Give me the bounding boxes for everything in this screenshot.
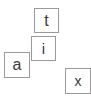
letter-tile-glyph: x	[75, 74, 82, 88]
letter-tile-glyph: i	[42, 41, 45, 56]
letter-tile-canvas: t i a x	[0, 0, 91, 96]
letter-tile-glyph: a	[13, 57, 22, 73]
letter-tile-x[interactable]: x	[65, 68, 91, 94]
letter-tile-glyph: t	[44, 13, 48, 29]
letter-tile-i[interactable]: i	[31, 36, 56, 61]
letter-tile-a[interactable]: a	[4, 52, 30, 78]
letter-tile-t[interactable]: t	[34, 8, 59, 33]
